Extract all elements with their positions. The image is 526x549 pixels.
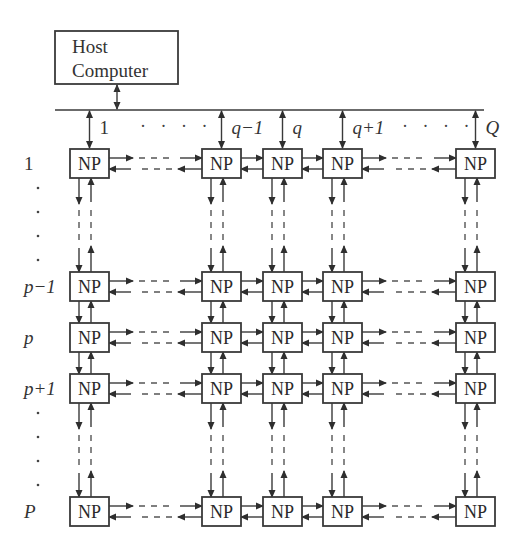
np-node-r3-c5: NP	[456, 323, 495, 352]
h-link-r1-c4	[362, 158, 456, 169]
np-node-label: NP	[271, 277, 294, 297]
np-node-label: NP	[271, 379, 294, 399]
np-node-r5-c5: NP	[456, 497, 495, 526]
h-link-r4-c4	[362, 383, 456, 394]
np-node-label: NP	[331, 328, 354, 348]
np-node-r5-c4: NP	[323, 497, 362, 526]
np-node-r1-c4: NP	[323, 149, 362, 178]
np-node-label: NP	[78, 328, 101, 348]
processor-array-diagram: Host Computer 1q−1qq+1Q 1p−1pp+1P NPNPNP…	[0, 0, 526, 549]
row-ellipsis-dot	[37, 436, 40, 439]
np-node-label: NP	[78, 154, 101, 174]
h-link-r5-c3	[302, 506, 323, 517]
np-node-r2-c4: NP	[323, 272, 362, 301]
row-label-4: p+1	[22, 378, 56, 399]
np-node-label: NP	[210, 502, 233, 522]
np-node-r3-c4: NP	[323, 323, 362, 352]
column-label-4: q+1	[353, 117, 385, 138]
np-node-r2-c1: NP	[70, 272, 109, 301]
h-link-r3-c1	[109, 332, 202, 343]
v-link-c1-r2	[79, 301, 91, 323]
column-label-1: 1	[100, 117, 110, 138]
column-label-3: q	[293, 117, 303, 138]
v-link-c5-r1	[465, 178, 477, 272]
h-link-r3-c4	[362, 332, 456, 343]
np-node-r1-c3: NP	[263, 149, 302, 178]
v-link-c4-r4	[332, 403, 344, 497]
np-node-label: NP	[464, 277, 487, 297]
h-link-r5-c1	[109, 506, 202, 517]
np-node-label: NP	[271, 502, 294, 522]
v-link-c3-r1	[272, 178, 284, 272]
np-node-label: NP	[331, 154, 354, 174]
host-computer-label-line2: Computer	[72, 60, 149, 81]
np-node-label: NP	[464, 154, 487, 174]
h-link-r3-c3	[302, 332, 323, 343]
v-link-c3-r2	[272, 301, 284, 323]
np-node-r1-c1: NP	[70, 149, 109, 178]
v-link-c3-r3	[272, 352, 284, 374]
h-link-r2-c2	[241, 281, 263, 292]
row-ellipsis-dot	[37, 484, 40, 487]
np-node-r4-c4: NP	[323, 374, 362, 403]
row-ellipsis-dot	[37, 187, 40, 190]
np-node-r1-c5: NP	[456, 149, 495, 178]
row-label-2: p−1	[22, 276, 56, 297]
row-label-3: p	[22, 327, 34, 348]
np-node-grid: NPNPNPNPNPNPNPNPNPNPNPNPNPNPNPNPNPNPNPNP…	[70, 149, 495, 526]
np-node-label: NP	[210, 154, 233, 174]
v-link-c4-r1	[332, 178, 344, 272]
np-node-r3-c3: NP	[263, 323, 302, 352]
row-label-1: 1	[24, 153, 34, 174]
np-node-label: NP	[464, 328, 487, 348]
v-link-c5-r3	[465, 352, 477, 374]
v-link-c5-r2	[465, 301, 477, 323]
row-ellipsis-dot	[37, 235, 40, 238]
row-ellipsis-dot	[37, 412, 40, 415]
np-node-label: NP	[210, 379, 233, 399]
np-node-r5-c1: NP	[70, 497, 109, 526]
np-node-label: NP	[271, 328, 294, 348]
np-node-r4-c5: NP	[456, 374, 495, 403]
v-link-c1-r4	[79, 403, 91, 497]
np-node-label: NP	[78, 379, 101, 399]
np-node-label: NP	[210, 328, 233, 348]
h-link-r1-c1	[109, 158, 202, 169]
h-link-r2-c1	[109, 281, 202, 292]
column-ellipsis-left: · · · ·	[140, 116, 212, 136]
row-ellipsis-dot	[37, 460, 40, 463]
np-node-r1-c2: NP	[202, 149, 241, 178]
h-link-r4-c3	[302, 383, 323, 394]
v-link-c2-r2	[211, 301, 223, 323]
host-computer: Host Computer	[55, 31, 178, 84]
np-node-label: NP	[464, 502, 487, 522]
v-link-c5-r4	[465, 403, 477, 497]
row-labels: 1p−1pp+1P	[22, 153, 56, 522]
v-link-c4-r3	[332, 352, 344, 374]
v-link-c2-r1	[211, 178, 223, 272]
row-label-5: P	[23, 501, 36, 522]
np-node-label: NP	[271, 154, 294, 174]
v-link-c1-r3	[79, 352, 91, 374]
np-node-r2-c2: NP	[202, 272, 241, 301]
h-link-r3-c2	[241, 332, 263, 343]
v-link-c3-r4	[272, 403, 284, 497]
np-node-r2-c3: NP	[263, 272, 302, 301]
column-label-2: q−1	[232, 117, 264, 138]
row-ellipsis-dot	[37, 259, 40, 262]
np-node-label: NP	[210, 277, 233, 297]
h-link-r5-c4	[362, 506, 456, 517]
h-link-r1-c2	[241, 158, 263, 169]
h-link-r5-c2	[241, 506, 263, 517]
v-link-c1-r1	[79, 178, 91, 272]
np-node-r4-c3: NP	[263, 374, 302, 403]
np-node-label: NP	[78, 277, 101, 297]
v-link-c2-r4	[211, 403, 223, 497]
np-node-label: NP	[331, 277, 354, 297]
np-node-r5-c2: NP	[202, 497, 241, 526]
row-ellipsis-dot	[37, 211, 40, 214]
np-node-r3-c1: NP	[70, 323, 109, 352]
column-label-5: Q	[486, 117, 500, 138]
host-computer-label-line1: Host	[72, 36, 109, 57]
v-link-c2-r3	[211, 352, 223, 374]
